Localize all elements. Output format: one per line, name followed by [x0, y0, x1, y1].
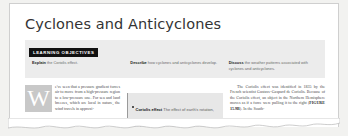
learning-objective-3: Discuss the weather patterns associated … — [229, 60, 319, 71]
torn-paper-edge — [8, 118, 340, 132]
learning-objective-2-verb: Describe — [130, 60, 146, 65]
right-column-text-before-figure-reference: The Coriolis effect was identified in 18… — [230, 84, 325, 111]
learning-objective-1-verb: Explain — [32, 60, 46, 65]
textbook-page: Cyclones and Anticyclones LEARNING OBJEC… — [9, 3, 339, 127]
scanned-page-background: Cyclones and Anticyclones LEARNING OBJEC… — [0, 0, 348, 136]
page-title: Cyclones and Anticyclones — [25, 16, 325, 33]
learning-objective-2: Describe how cyclones and anticyclones d… — [130, 60, 220, 71]
learning-objective-1: Explain the Coriolis effect. — [32, 60, 122, 71]
learning-objective-1-text: the Coriolis effect. — [46, 60, 78, 65]
callout-term: Coriolis effect — [136, 107, 163, 112]
learning-objectives-columns: Explain the Coriolis effect. Describe ho… — [25, 60, 325, 71]
left-column-text: e've seen that a pressure gradient force… — [55, 84, 120, 111]
bullet-icon — [132, 106, 134, 108]
drop-cap-letter: W — [25, 85, 52, 112]
learning-objectives-banner: LEARNING OBJECTIVES — [29, 48, 98, 57]
learning-objectives-section: LEARNING OBJECTIVES Explain the Coriolis… — [25, 40, 325, 78]
right-column-paragraph: The Coriolis effect was identified in 18… — [230, 84, 325, 111]
learning-objective-2-text: how cyclones and anticyclones develop. — [147, 60, 217, 65]
left-column-paragraph: We've seen that a pressure gradient forc… — [25, 84, 120, 111]
right-column-text-after-figure-reference: ). In the South- — [240, 106, 265, 111]
page-content: Cyclones and Anticyclones LEARNING OBJEC… — [25, 16, 325, 127]
learning-objective-3-verb: Discuss — [229, 60, 244, 65]
